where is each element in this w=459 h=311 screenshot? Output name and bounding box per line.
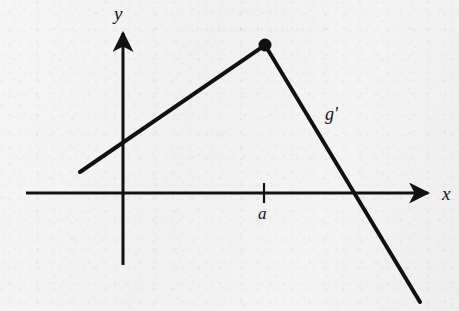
y-axis-label: y xyxy=(114,4,122,23)
curve-g-prime xyxy=(80,45,420,302)
curve-label-g-prime: g' xyxy=(325,105,338,123)
x-axis-label: x xyxy=(442,184,450,203)
corner-point-marker xyxy=(259,39,272,52)
coordinate-plot xyxy=(0,0,459,311)
figure-canvas: a corner and hence is differentiable eve… xyxy=(0,0,459,311)
x-axis-tick-label-a: a xyxy=(258,205,267,222)
